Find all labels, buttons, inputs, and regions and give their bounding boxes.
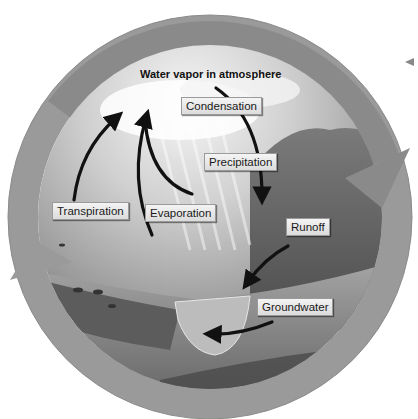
- water-cycle-diagram: Water vapor in atmosphere Condensation P…: [0, 0, 418, 419]
- label-precipitation: Precipitation: [204, 153, 277, 171]
- label-transpiration: Transpiration: [52, 202, 129, 220]
- label-evaporation: Evaporation: [145, 204, 216, 222]
- label-groundwater: Groundwater: [257, 298, 333, 316]
- label-runoff: Runoff: [286, 218, 330, 236]
- atmosphere-title: Water vapor in atmosphere: [140, 68, 281, 80]
- arrow-fragment-icon: [405, 58, 414, 66]
- label-condensation: Condensation: [181, 97, 262, 115]
